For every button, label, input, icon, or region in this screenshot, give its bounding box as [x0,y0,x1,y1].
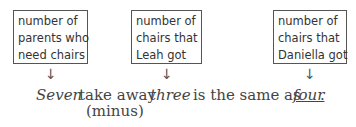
arrow-down-icon: ↓ [45,66,57,82]
word-seven: Seven [36,86,82,104]
box-line: chairs that [278,30,342,47]
box-line: parents who [18,30,83,47]
box-line: Leah got [136,47,197,64]
relation-text: is the same as [193,86,301,104]
box-line: need chairs [18,47,83,64]
label-box-daniella: number of chairs that Daniella got [273,10,347,64]
box-line: number of [278,13,342,30]
box-line: number of [136,13,197,30]
arrow-down-icon: ↓ [304,66,316,82]
label-box-parents: number of parents who need chairs [13,10,88,64]
box-line: number of [18,13,83,30]
word-three: three [150,86,191,104]
box-line: chairs that [136,30,197,47]
box-line: Daniella got [278,47,342,64]
label-box-leah: number of chairs that Leah got [131,10,202,64]
operation-note-minus: (minus) [86,102,144,120]
arrow-down-icon: ↓ [161,66,173,82]
sentence-period: . [320,86,325,104]
